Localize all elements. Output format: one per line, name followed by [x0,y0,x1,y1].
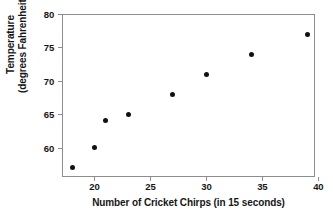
x-axis-label: Number of Cricket Chirps (in 15 seconds) [62,197,315,208]
plot-area [62,14,315,177]
data-point [204,72,209,77]
data-point [305,32,310,37]
y-tick-label: 65 [44,109,54,120]
y-axis-label-line2: (degrees Fahrenheit) [17,0,29,107]
data-point [70,165,75,170]
y-tick-mark [58,148,62,149]
x-tick-label: 40 [313,181,323,192]
x-tick-label: 30 [201,181,211,192]
y-tick-mark [58,47,62,48]
y-tick-label: 60 [44,142,54,153]
data-point [170,92,175,97]
x-tick-label: 25 [145,181,155,192]
x-tick-label: 20 [89,181,99,192]
y-tick-label: 75 [44,42,54,53]
cricket-chirps-scatter-chart: 2025303540 6065707580 Number of Cricket … [0,0,333,221]
data-point [249,52,254,57]
y-tick-label: 70 [44,75,54,86]
y-axis-label-line1: Temperature [5,0,17,107]
y-tick-mark [58,81,62,82]
x-tick-label: 35 [257,181,267,192]
y-tick-mark [58,114,62,115]
y-tick-label: 80 [44,9,54,20]
data-point [126,112,131,117]
y-tick-mark [58,14,62,15]
y-axis-label: Temperature (degrees Fahrenheit) [5,0,28,107]
